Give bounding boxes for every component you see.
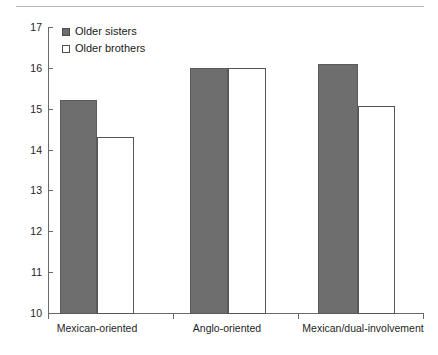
y-tick-13 <box>48 190 53 191</box>
x-axis-label-anglo-oriented: Anglo-oriented <box>170 322 284 334</box>
y-tick-11 <box>48 272 53 273</box>
y-tick-15 <box>48 109 53 110</box>
legend-label-older-brothers: Older brothers <box>75 43 145 54</box>
bar-older-sisters-mexican-dual-involvement <box>318 64 358 314</box>
y-tick-17 <box>48 27 53 28</box>
legend-item-older-sisters: Older sisters <box>62 24 145 39</box>
x-axis-label-mexican-oriented: Mexican-oriented <box>37 322 157 334</box>
y-tick-label-13: 13 <box>20 185 42 196</box>
bar-older-brothers-anglo-oriented <box>228 68 266 314</box>
filled-square-icon <box>62 28 70 36</box>
legend-label-older-sisters: Older sisters <box>75 26 137 37</box>
legend-item-older-brothers: Older brothers <box>62 41 145 56</box>
bar-older-sisters-anglo-oriented <box>190 68 228 314</box>
x-tick-0 <box>48 314 49 319</box>
y-tick-16 <box>48 68 53 69</box>
y-tick-14 <box>48 150 53 151</box>
chart-legend: Older sisters Older brothers <box>62 24 145 58</box>
y-tick-label-10: 10 <box>20 308 42 319</box>
y-tick-label-15: 15 <box>20 104 42 115</box>
y-tick-label-17: 17 <box>20 22 42 33</box>
x-tick-2 <box>298 314 299 319</box>
x-axis-label-mexican-dual-involvement: Mexican/dual-involvement <box>288 322 438 334</box>
y-tick-label-14: 14 <box>20 145 42 156</box>
bar-chart-figure: 17 16 15 14 13 12 11 10 Mexican-oriented… <box>0 0 438 355</box>
y-tick-12 <box>48 231 53 232</box>
x-tick-1 <box>173 314 174 319</box>
y-tick-label-16: 16 <box>20 63 42 74</box>
y-tick-label-12: 12 <box>20 226 42 237</box>
y-tick-label-11: 11 <box>20 267 42 278</box>
y-axis-line <box>48 27 49 314</box>
x-tick-3 <box>423 314 424 319</box>
bar-older-sisters-mexican-oriented <box>60 100 97 314</box>
bar-older-brothers-mexican-oriented <box>97 137 134 314</box>
open-square-icon <box>62 45 70 53</box>
bar-older-brothers-mexican-dual-involvement <box>358 106 395 314</box>
